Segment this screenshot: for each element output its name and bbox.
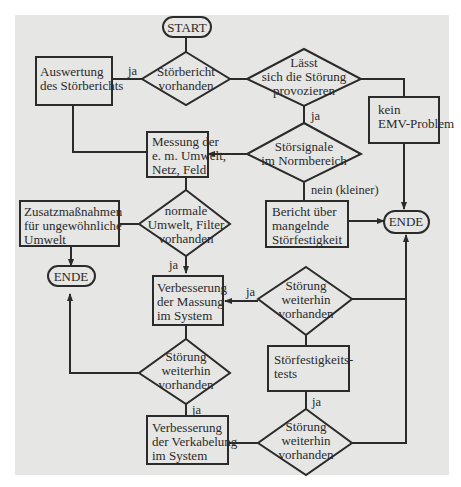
end-terminal-right: ENDE (384, 211, 429, 233)
connectors (70, 37, 406, 443)
svg-text:vorhanden: vorhanden (279, 447, 334, 462)
edge-label-norm-no: nein (kleiner) (311, 183, 379, 197)
svg-text:Verbesserung: Verbesserung (152, 420, 223, 435)
svg-text:Störung: Störung (165, 349, 207, 364)
svg-text:Zusatzmaßnahmen: Zusatzmaßnahmen (24, 204, 123, 219)
svg-text:Störfestigkeits-: Störfestigkeits- (274, 352, 353, 367)
decision-report-exists: Störbericht vorhanden (142, 52, 230, 105)
svg-text:weiterhin: weiterhin (281, 292, 331, 307)
start-label: START (167, 20, 206, 35)
svg-text:tests: tests (274, 366, 297, 381)
svg-text:Umwelt: Umwelt (24, 232, 66, 247)
svg-text:e. m. Umwelt,: e. m. Umwelt, (152, 148, 226, 163)
svg-text:vorhanden: vorhanden (159, 231, 214, 246)
svg-text:Bericht über: Bericht über (272, 204, 337, 219)
process-evaluate-report: Auswertung des Störberichts (36, 57, 123, 105)
svg-text:im System: im System (152, 448, 207, 463)
svg-text:Störung: Störung (285, 419, 327, 434)
svg-text:des Störberichts: des Störberichts (40, 78, 123, 93)
decision-signals-in-norm: Störsignale im Normbereich (247, 123, 361, 182)
edge-label-report-yes: ja (127, 64, 137, 78)
svg-text:mangelnde: mangelnde (272, 218, 329, 233)
decision-still-present-bottom: Störung weiterhin vorhanden (258, 409, 352, 475)
svg-text:weiterhin: weiterhin (161, 363, 211, 378)
process-no-emc-problem: kein EMV-Problem (369, 97, 454, 143)
flowchart: ja ja nein (kleiner) ja ja ja ja START S… (0, 0, 461, 487)
svg-text:Störsignale: Störsignale (275, 139, 334, 154)
decision-provoke: Lässt sich die Störung provozieren (247, 49, 361, 106)
svg-text:ENDE: ENDE (54, 269, 89, 284)
svg-text:Verbesserung: Verbesserung (157, 280, 228, 295)
svg-text:provozieren: provozieren (273, 83, 336, 98)
decision-still-present-middle: Störung weiterhin vorhanden (139, 339, 230, 404)
process-improve-cabling: Verbesserung der Verkabelung im System (147, 416, 238, 464)
svg-text:für ungewöhnliche: für ungewöhnliche (24, 218, 122, 233)
svg-text:normale: normale (165, 203, 208, 218)
process-report-poor-immunity: Bericht über mangelnde Störfestigkeit (266, 201, 348, 247)
process-immunity-tests: Störfestigkeits- tests (268, 346, 353, 391)
edge-label-still1-yes: ja (191, 403, 201, 417)
svg-text:weiterhin: weiterhin (281, 433, 331, 448)
svg-text:Messung der: Messung der (152, 134, 219, 149)
svg-text:der Massung: der Massung (157, 294, 224, 309)
svg-text:Auswertung: Auswertung (40, 64, 104, 79)
process-extra-measures: Zusatzmaßnahmen für ungewöhnliche Umwelt (20, 201, 123, 247)
svg-text:im System: im System (157, 308, 212, 323)
process-improve-grounding: Verbesserung der Massung im System (153, 276, 228, 325)
start-terminal: START (163, 17, 211, 37)
svg-text:im Normbereich: im Normbereich (261, 153, 347, 168)
svg-text:Störfestigkeit: Störfestigkeit (272, 232, 342, 247)
svg-text:sich die Störung: sich die Störung (262, 69, 347, 84)
svg-text:vorhanden: vorhanden (279, 306, 334, 321)
svg-text:Umwelt, Filter: Umwelt, Filter (148, 217, 225, 232)
svg-text:Störung: Störung (285, 278, 327, 293)
svg-text:vorhanden: vorhanden (159, 377, 214, 392)
svg-text:Störbericht: Störbericht (157, 64, 215, 79)
process-measure-environment: Messung der e. m. Umwelt, Netz, Feld (147, 132, 226, 177)
edge-label-env-yes: ja (168, 258, 178, 272)
svg-text:Netz, Feld: Netz, Feld (152, 162, 207, 177)
edge-label-still-right-yes: ja (245, 285, 255, 299)
edge-label-provoke-yes: ja (310, 109, 320, 123)
svg-text:kein: kein (378, 102, 401, 117)
edge-label-tests-yes: ja (311, 395, 321, 409)
end-terminal-left: ENDE (48, 266, 95, 286)
svg-text:Lässt: Lässt (290, 55, 318, 70)
decision-still-present-right: Störung weiterhin vorhanden (258, 267, 352, 335)
svg-text:der Verkabelung: der Verkabelung (152, 434, 238, 449)
svg-text:vorhanden: vorhanden (159, 78, 214, 93)
svg-text:ENDE: ENDE (389, 214, 424, 229)
decision-normal-environment: normale Umwelt, Filter vorhanden (139, 190, 230, 256)
svg-text:EMV-Problem: EMV-Problem (378, 116, 454, 131)
